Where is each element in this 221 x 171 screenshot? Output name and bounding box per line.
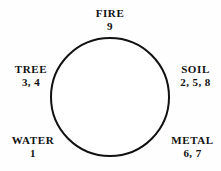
node-name-metal: METAL	[164, 135, 221, 146]
node-name-tree: TREE	[4, 64, 58, 75]
node-label-fire: FIRE 9	[75, 8, 145, 32]
node-name-fire: FIRE	[75, 8, 145, 19]
node-label-tree: TREE 3, 4	[4, 64, 58, 88]
node-values-metal: 6, 7	[164, 148, 221, 159]
node-values-tree: 3, 4	[4, 77, 58, 88]
node-values-fire: 9	[75, 21, 145, 32]
node-name-soil: SOIL	[170, 64, 221, 75]
node-label-metal: METAL 6, 7	[164, 135, 221, 159]
node-label-water: WATER 1	[2, 135, 64, 159]
node-label-soil: SOIL 2, 5, 8	[170, 64, 221, 88]
node-name-water: WATER	[2, 135, 64, 146]
circle-outline	[51, 38, 169, 156]
node-values-soil: 2, 5, 8	[170, 77, 221, 88]
node-values-water: 1	[2, 148, 64, 159]
elements-cycle-diagram: FIRE 9 TREE 3, 4 SOIL 2, 5, 8 WATER 1 ME…	[0, 0, 221, 171]
